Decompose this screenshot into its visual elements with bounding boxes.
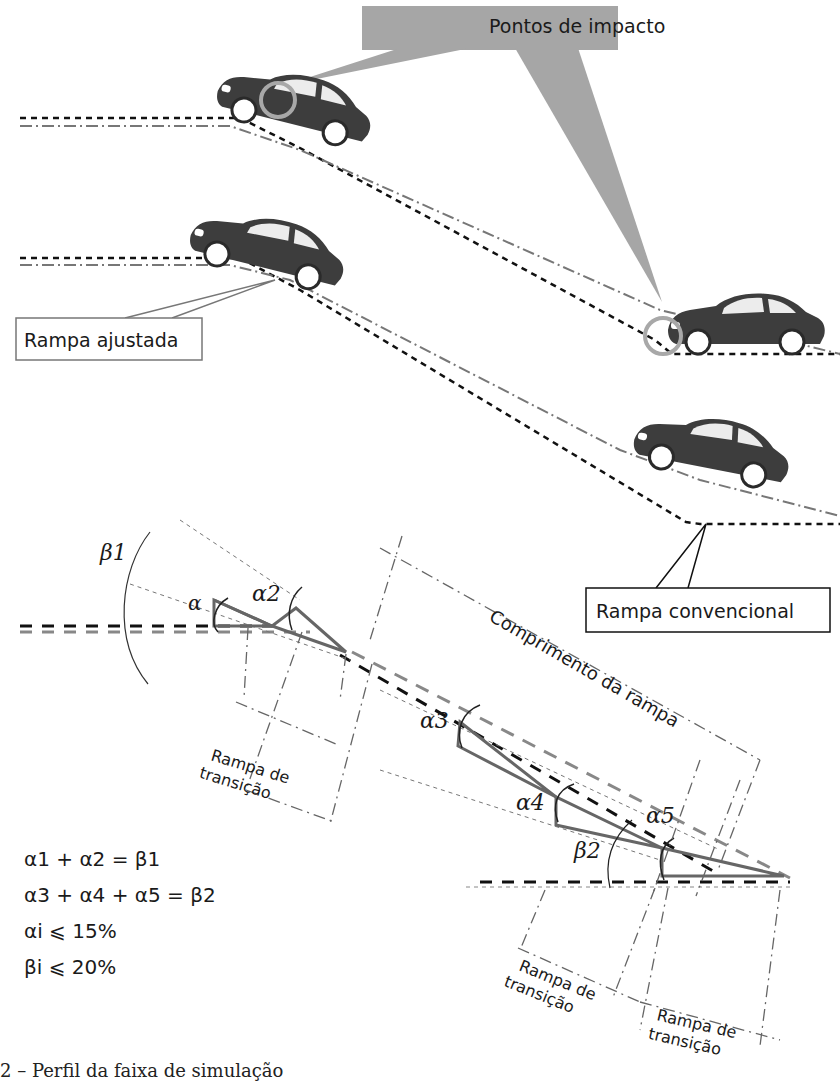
alpha1-label: α	[188, 591, 202, 615]
top-profiles: Rampa ajustada Rampa convencional Pontos…	[16, 6, 840, 632]
beta2-label: β2	[573, 838, 601, 863]
alpha2-label: α2	[252, 581, 281, 606]
conventional-ramp-label: Rampa convencional	[586, 524, 830, 632]
figure-caption: 2 – Perfil da faixa de simulação	[0, 1060, 283, 1081]
alpha3-label: α3	[420, 708, 449, 733]
svg-text:Rampa ajustada: Rampa ajustada	[24, 329, 178, 351]
beta1-label: β1	[99, 540, 127, 565]
transition-ramp-label-1: Rampa de transição	[197, 744, 292, 807]
formula-beta1: α1 + α2 = β1	[24, 847, 160, 871]
transition-ramp-label-3: Rampa de transição	[647, 1004, 739, 1061]
impact-callout	[282, 6, 662, 302]
adjusted-ramp-lower	[20, 265, 840, 516]
car-icon	[668, 294, 825, 355]
adjusted-ramp-label: Rampa ajustada	[16, 280, 275, 360]
formula-block: α1 + α2 = β1 α3 + α4 + α5 = β2 αi ⩽ 15% …	[24, 847, 216, 979]
svg-text:Rampa convencional: Rampa convencional	[596, 600, 794, 622]
formula-beta-limit: βi ⩽ 20%	[24, 955, 116, 979]
conventional-ramp-lower	[20, 258, 840, 524]
formula-beta2: α3 + α4 + α5 = β2	[24, 883, 216, 907]
alpha4-label: α4	[516, 790, 545, 815]
ramp-diagram: Rampa ajustada Rampa convencional Pontos…	[0, 0, 840, 1081]
formula-alpha-limit: αi ⩽ 15%	[24, 919, 117, 943]
transition-ramp-label-2: Rampa de transição	[502, 953, 599, 1023]
impact-points-label: Pontos de impacto	[489, 15, 665, 37]
car-icon	[630, 404, 795, 493]
alpha5-label: α5	[646, 803, 675, 828]
